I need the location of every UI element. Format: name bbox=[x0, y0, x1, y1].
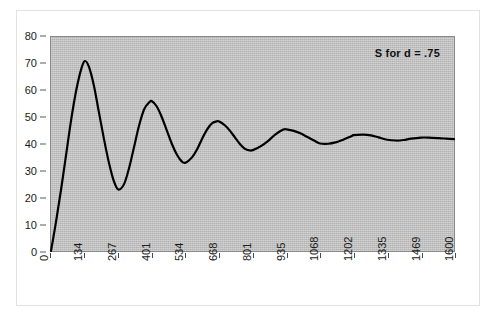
y-tick-mark bbox=[40, 225, 46, 226]
x-axis: 0134267401534668801935106812021335146916… bbox=[50, 253, 455, 315]
y-tick-mark bbox=[40, 198, 46, 199]
x-tick-label: 1068 bbox=[309, 237, 320, 261]
y-tick-label: 50 bbox=[25, 111, 37, 123]
x-tick-label: 1335 bbox=[376, 237, 387, 261]
x-tick-label: 1469 bbox=[410, 237, 421, 261]
x-tick-label: 801 bbox=[241, 243, 252, 261]
x-tick-label: 668 bbox=[208, 243, 219, 261]
x-tick-mark bbox=[118, 253, 119, 258]
y-tick-mark bbox=[40, 144, 46, 145]
y-tick-mark bbox=[40, 63, 46, 64]
y-tick-label: 0 bbox=[31, 246, 37, 258]
x-tick-label: 267 bbox=[106, 243, 117, 261]
x-tick-label: 1202 bbox=[343, 237, 354, 261]
x-tick-mark bbox=[152, 253, 153, 258]
x-tick-mark bbox=[84, 253, 85, 258]
x-tick-label: 534 bbox=[174, 243, 185, 261]
x-tick-mark bbox=[354, 253, 355, 258]
x-tick-mark bbox=[455, 253, 456, 258]
series-path-s-for-d-075 bbox=[51, 61, 454, 251]
y-tick-mark bbox=[40, 90, 46, 91]
y-tick-mark bbox=[40, 171, 46, 172]
x-tick-label: 0 bbox=[39, 255, 50, 261]
x-tick-mark bbox=[287, 253, 288, 258]
x-tick-label: 1600 bbox=[444, 237, 455, 261]
y-tick-mark bbox=[40, 252, 46, 253]
y-tick-label: 70 bbox=[25, 57, 37, 69]
y-tick-mark bbox=[40, 36, 46, 37]
x-tick-mark bbox=[253, 253, 254, 258]
y-tick-mark bbox=[40, 117, 46, 118]
y-tick-label: 80 bbox=[25, 30, 37, 42]
x-tick-mark bbox=[185, 253, 186, 258]
chart-annotation: S for d = .75 bbox=[375, 47, 440, 59]
x-tick-mark bbox=[320, 253, 321, 258]
chart-figure: 80706050403020100 S for d = .75 01342674… bbox=[0, 0, 496, 318]
y-tick-label: 10 bbox=[25, 219, 37, 231]
y-tick-label: 30 bbox=[25, 165, 37, 177]
x-tick-mark bbox=[388, 253, 389, 258]
x-tick-mark bbox=[219, 253, 220, 258]
plot-area: S for d = .75 bbox=[50, 36, 455, 252]
x-tick-mark bbox=[422, 253, 423, 258]
x-tick-mark bbox=[50, 253, 51, 258]
x-tick-label: 935 bbox=[275, 243, 286, 261]
series-line-chart bbox=[51, 37, 454, 251]
y-tick-label: 60 bbox=[25, 84, 37, 96]
x-tick-label: 401 bbox=[140, 243, 151, 261]
y-tick-label: 40 bbox=[25, 138, 37, 150]
y-axis: 80706050403020100 bbox=[0, 36, 50, 252]
x-tick-label: 134 bbox=[72, 243, 83, 261]
y-tick-label: 20 bbox=[25, 192, 37, 204]
